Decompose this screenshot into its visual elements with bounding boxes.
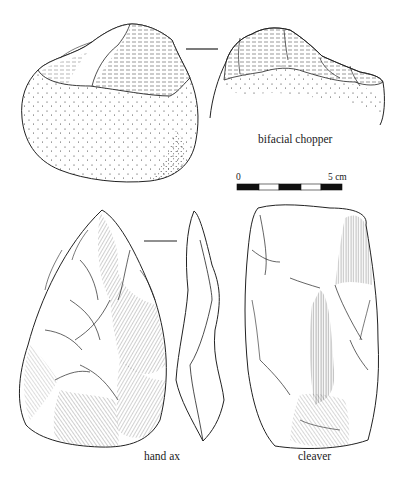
scale-end-label: 5 cm: [328, 172, 347, 182]
stone-tools-illustration: [0, 0, 406, 487]
scale-start-label: 0: [236, 172, 241, 182]
bifacial-chopper-side-drawing: [210, 28, 384, 125]
hand-ax-profile-drawing: [176, 211, 224, 441]
hand-ax-label: hand ax: [144, 450, 180, 462]
bifacial-chopper-front-drawing: [22, 24, 198, 182]
bifacial-chopper-label: bifacial chopper: [258, 133, 332, 145]
scale-bar: [237, 184, 342, 190]
cleaver-drawing: [245, 205, 379, 449]
hand-ax-face-drawing: [19, 210, 166, 447]
cleaver-label: cleaver: [298, 450, 331, 462]
